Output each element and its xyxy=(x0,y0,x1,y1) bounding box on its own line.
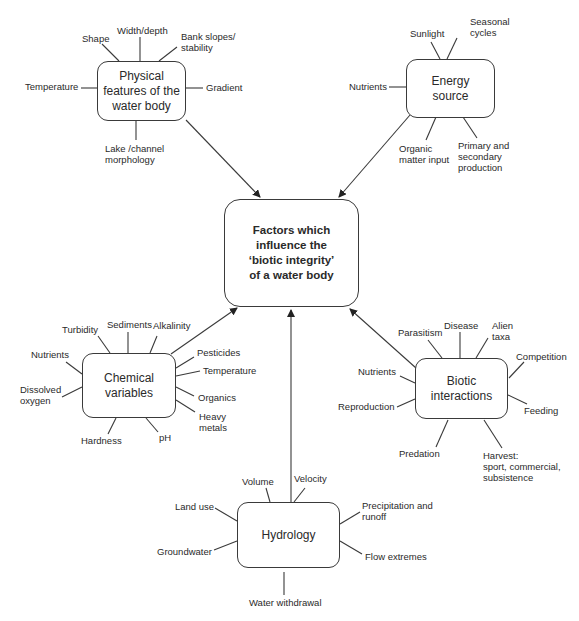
factor-label: Organics xyxy=(198,392,236,403)
factor-label: Pesticides xyxy=(197,347,240,358)
factor-label: Temperature xyxy=(25,81,78,92)
factor-label: Nutrients xyxy=(349,81,387,92)
node-hydrology: Hydrology xyxy=(237,502,340,568)
factor-label: Dissolved oxygen xyxy=(20,384,61,406)
factor-label: Bank slopes/ stability xyxy=(181,31,235,53)
factor-label: Flow extremes xyxy=(365,551,427,562)
factor-label: Organic matter input xyxy=(399,143,449,165)
factor-label: Gradient xyxy=(206,82,242,93)
factor-label: Land use xyxy=(175,501,214,512)
node-title: Physical features of the water body xyxy=(103,69,180,114)
node-energy-source: Energy source xyxy=(406,59,495,118)
factor-label: Hardness xyxy=(81,435,122,446)
factor-label: Sediments xyxy=(107,319,152,330)
node-chemical-variables: Chemical variables xyxy=(82,353,176,418)
factor-label: Temperature xyxy=(203,365,256,376)
factor-label: Groundwater xyxy=(157,546,212,557)
factor-label: Disease xyxy=(444,320,478,331)
arrow-biotic-to-center xyxy=(350,309,416,368)
node-title: Hydrology xyxy=(261,528,315,543)
factor-label: Reproduction xyxy=(338,401,395,412)
central-node-biotic-integrity: Factors which influence the ‘biotic inte… xyxy=(224,199,359,307)
factor-label: Sunlight xyxy=(410,28,444,39)
factor-label: pH xyxy=(159,432,171,443)
factor-label: Precipitation and runoff xyxy=(362,500,433,522)
central-node-title: Factors which influence the ‘biotic inte… xyxy=(249,223,335,283)
factor-label: Feeding xyxy=(524,405,558,416)
factor-label: Velocity xyxy=(294,473,327,484)
factor-label: Harvest: sport, commercial, subsistence xyxy=(483,450,561,483)
node-title: Energy source xyxy=(431,74,469,104)
factor-label: Nutrients xyxy=(31,349,69,360)
factor-label: Volume xyxy=(242,476,274,487)
factor-label: Water withdrawal xyxy=(249,597,322,608)
factor-label: Alkalinity xyxy=(153,320,191,331)
node-physical-features: Physical features of the water body xyxy=(97,61,186,121)
node-biotic-interactions: Biotic interactions xyxy=(415,358,508,419)
factor-label: Shape xyxy=(82,33,109,44)
factor-label: Lake /channel morphology xyxy=(105,143,164,165)
factor-label: Alien taxa xyxy=(492,320,513,342)
factor-label: Seasonal cycles xyxy=(470,16,510,38)
arrow-physical-to-center xyxy=(186,120,260,197)
factor-label: Nutrients xyxy=(358,366,396,377)
factor-label: Primary and secondary production xyxy=(458,140,509,173)
factor-label: Parasitism xyxy=(398,327,442,338)
factor-label: Heavy metals xyxy=(199,411,227,433)
node-title: Chemical variables xyxy=(104,371,154,401)
node-title: Biotic interactions xyxy=(431,374,492,404)
factor-label: Predation xyxy=(399,448,440,459)
factor-label: Turbidity xyxy=(62,324,98,335)
factor-label: Width/depth xyxy=(117,25,168,36)
factor-label: Competition xyxy=(516,351,567,362)
